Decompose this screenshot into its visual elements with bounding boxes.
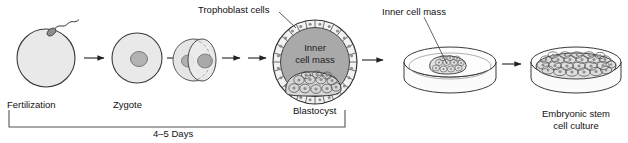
embryonic-stem-cell-diagram: Fertilization Zygote Trophoblast cells B… [0, 0, 628, 143]
label-blastocyst: Blastocyst [293, 105, 336, 116]
stage-fertilization [17, 20, 79, 88]
label-inner-cell-mass-blastocyst-line1: Inner [286, 42, 344, 53]
stage-icm-dish [404, 17, 496, 93]
label-esc-culture-line1: Embryonic stem [526, 108, 626, 119]
egg-cell [17, 29, 75, 87]
stage-cleavage [173, 39, 216, 81]
icm-colony [430, 55, 466, 74]
stage-zygote [112, 33, 162, 83]
label-zygote: Zygote [113, 99, 142, 110]
label-esc-culture-line2: cell culture [526, 120, 626, 131]
trophoblast-leader-line [279, 12, 296, 28]
sperm-tail-icon [55, 20, 79, 29]
esc-monolayer [536, 52, 616, 79]
zygote-nucleus [131, 52, 148, 67]
stage-esc-culture [531, 47, 621, 93]
label-inner-cell-mass-dish: Inner cell mass [382, 6, 446, 17]
label-timeline-duration: 4–5 Days [153, 128, 193, 139]
label-trophoblast-cells: Trophoblast cells [198, 4, 269, 15]
label-inner-cell-mass-blastocyst-line2: cell mass [286, 54, 344, 65]
label-fertilization: Fertilization [7, 99, 56, 110]
